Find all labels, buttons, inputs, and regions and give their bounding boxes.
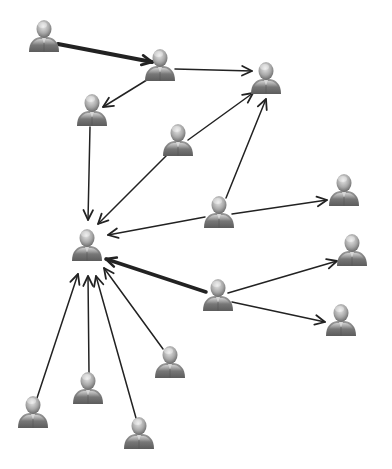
- nodes-layer: [18, 20, 367, 449]
- edge-n5-n3: [188, 93, 253, 140]
- edge-line: [232, 302, 325, 322]
- edge-n4-n8: [83, 127, 93, 220]
- edge-n1-n2: [58, 44, 152, 65]
- edge-n6-n7: [232, 197, 327, 214]
- edge-line: [108, 217, 205, 235]
- edge-n6-n3: [226, 99, 267, 198]
- edge-line: [232, 200, 327, 214]
- edge-n10-n8: [106, 258, 206, 292]
- arrowhead-icon: [103, 98, 114, 107]
- person-icon-n13: [73, 372, 103, 404]
- person-icon-n11: [326, 304, 356, 336]
- edges-layer: [37, 44, 337, 418]
- edge-line: [103, 78, 150, 107]
- edge-n6-n8: [108, 217, 205, 238]
- person-icon-n2: [145, 49, 175, 81]
- person-icon-n9: [337, 234, 367, 266]
- edge-line: [188, 93, 253, 140]
- edge-n2-n4: [103, 78, 150, 107]
- edge-n10-n9: [228, 259, 337, 293]
- person-icon-n8: [72, 229, 102, 261]
- edge-line: [175, 69, 252, 71]
- edge-line: [37, 274, 78, 398]
- edge-line: [106, 259, 206, 292]
- person-icon-n14: [18, 396, 48, 428]
- edge-line: [88, 127, 90, 220]
- edge-line: [98, 155, 167, 224]
- graph-canvas: [0, 0, 392, 469]
- person-icon-n10: [203, 279, 233, 311]
- person-icon-n12: [155, 346, 185, 378]
- edge-n10-n11: [232, 302, 325, 325]
- person-icon-n1: [29, 20, 59, 52]
- edge-n5-n8: [98, 155, 167, 224]
- person-icon-n7: [329, 174, 359, 206]
- person-icon-n15: [124, 417, 154, 449]
- edge-n2-n3: [175, 66, 252, 76]
- edge-line: [58, 44, 152, 62]
- edge-line: [228, 261, 337, 293]
- edge-n14-n8: [37, 274, 79, 398]
- person-icon-n4: [77, 94, 107, 126]
- person-icon-n3: [251, 62, 281, 94]
- edge-line: [96, 276, 136, 418]
- edge-n13-n8: [83, 276, 93, 373]
- person-icon-n6: [204, 196, 234, 228]
- network-diagram: [0, 0, 392, 469]
- edge-line: [226, 99, 266, 198]
- edge-line: [88, 276, 89, 373]
